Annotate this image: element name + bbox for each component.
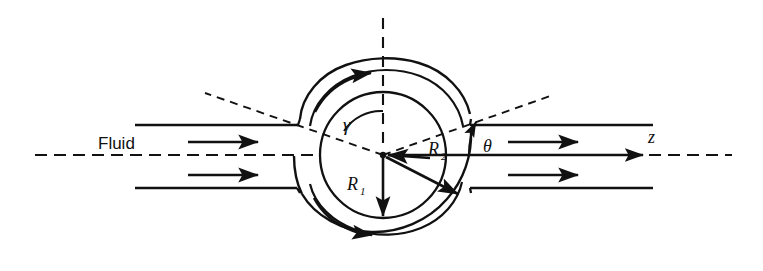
- gamma-angle-label: γ: [343, 114, 351, 135]
- figure-root: Fluid z γ θ R 1 R 2: [0, 0, 763, 271]
- R1-label-base: R: [346, 174, 358, 194]
- diagram-canvas: Fluid z γ θ R 1 R 2: [0, 0, 763, 271]
- R2-radius-arrow: [386, 157, 458, 194]
- theta-angle-label: θ: [483, 136, 492, 156]
- R2-label-base: R: [427, 139, 439, 159]
- theta-angle-arc: [469, 122, 476, 155]
- R1-label: R 1: [346, 174, 366, 197]
- R1-label-subscript: 1: [360, 185, 366, 197]
- fluid-label: Fluid: [98, 134, 135, 153]
- z-axis-label: z: [647, 127, 655, 147]
- R2-label-subscript: 2: [441, 150, 447, 162]
